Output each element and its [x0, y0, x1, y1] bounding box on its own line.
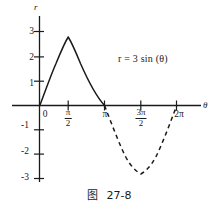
x-tick-label-3pi-over-2: 3π 2	[135, 108, 146, 129]
x-tick-pi-over-2-denominator: 2	[65, 119, 72, 128]
x-axis-label: θ	[203, 101, 207, 110]
caption-number: 27-8	[107, 189, 132, 202]
y-axis-label: r	[34, 3, 38, 12]
x-tick-label-2pi: 2π	[174, 110, 184, 120]
y-tick-label-2: 2	[18, 53, 34, 63]
x-tick-3pi-over-2-numerator: 3π	[135, 108, 146, 117]
x-tick-3pi-over-2-denominator: 2	[135, 119, 146, 128]
y-tick-label-minus-2: -2	[13, 147, 29, 157]
y-tick-label-3: 3	[18, 27, 34, 37]
equation-annotation: r = 3 sin (θ)	[118, 54, 168, 64]
caption-word: 图	[87, 189, 98, 202]
curve-solid-positive-lobe	[40, 37, 105, 105]
figure-caption: 图27-8	[0, 186, 218, 202]
x-tick-label-pi-over-2: π 2	[65, 108, 72, 129]
x-tick-pi-over-2-numerator: π	[65, 108, 72, 117]
figure-container: r θ 3 2 1 -1 -2 -3 0 π 2 π 3π 2 2π r = 3…	[0, 0, 218, 210]
y-tick-label-minus-3: -3	[13, 173, 29, 183]
y-tick-label-minus-1: -1	[13, 121, 29, 131]
y-tick-label-1: 1	[18, 79, 34, 89]
x-tick-label-pi: π	[103, 110, 108, 120]
x-tick-label-zero: 0	[43, 110, 48, 120]
